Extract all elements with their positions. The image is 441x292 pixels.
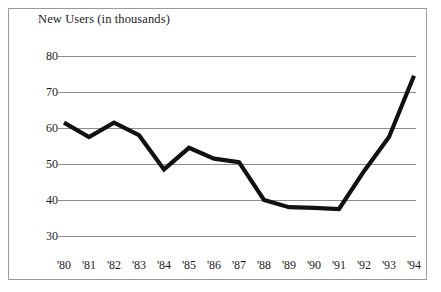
x-tick-label-92: '92 xyxy=(357,258,371,273)
y-tick-label-80: 80 xyxy=(28,49,58,64)
y-axis-tick-labels: 807060504030 xyxy=(26,56,58,236)
x-tick-label-86: '86 xyxy=(207,258,221,273)
x-tick-label-83: '83 xyxy=(132,258,146,273)
x-tick-label-90: '90 xyxy=(307,258,321,273)
x-tick-label-82: '82 xyxy=(107,258,121,273)
x-tick-label-91: '91 xyxy=(332,258,346,273)
x-tick-label-93: '93 xyxy=(382,258,396,273)
plot-area xyxy=(62,56,416,236)
x-tick-label-89: '89 xyxy=(282,258,296,273)
chart-figure: New Users (in thousands) 807060504030 '8… xyxy=(0,0,441,292)
x-tick-label-88: '88 xyxy=(257,258,271,273)
y-tick-label-60: 60 xyxy=(28,121,58,136)
y-tick-label-70: 70 xyxy=(28,85,58,100)
y-tick-label-40: 40 xyxy=(28,193,58,208)
data-line-series xyxy=(62,56,416,236)
x-tick-label-81: '81 xyxy=(82,258,96,273)
x-tick-label-87: '87 xyxy=(232,258,246,273)
series-polyline xyxy=(64,76,414,209)
x-tick-label-94: '94 xyxy=(407,258,421,273)
x-tick-label-84: '84 xyxy=(157,258,171,273)
y-tick-label-50: 50 xyxy=(28,157,58,172)
y-tick-label-30: 30 xyxy=(28,229,58,244)
x-axis-tick-labels: '80'81'82'83'84'85'86'87'88'89'90'91'92'… xyxy=(62,258,416,276)
gridline-30 xyxy=(62,236,416,237)
x-tick-label-80: '80 xyxy=(57,258,71,273)
x-tick-label-85: '85 xyxy=(182,258,196,273)
chart-title: New Users (in thousands) xyxy=(38,12,170,27)
